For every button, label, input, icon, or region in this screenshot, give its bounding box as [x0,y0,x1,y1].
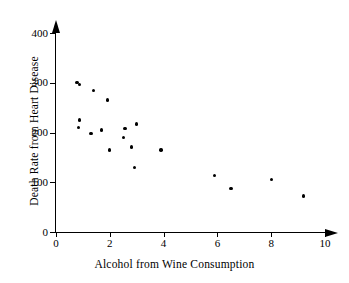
data-point [130,145,133,148]
y-tick-mark [50,33,55,34]
data-point [122,136,125,139]
x-tick-label: 2 [95,238,125,249]
data-point [92,89,95,92]
x-tick-label: 4 [149,238,179,249]
y-axis-arrow-icon [52,20,60,33]
data-point [89,132,92,135]
y-tick-mark [50,232,55,233]
data-point [159,148,162,151]
data-point [135,122,138,125]
data-point [78,83,81,86]
data-point [302,194,305,197]
x-tick-label: 6 [202,238,232,249]
x-axis-arrow-icon [325,229,338,237]
data-point [108,148,111,151]
data-point [213,174,216,177]
scatter-plot: 0100200300400 0246810 Alcohol from Wine … [0,0,349,283]
x-tick-label: 8 [256,238,286,249]
y-tick-mark [50,133,55,134]
x-axis-line [55,232,325,233]
data-point [229,187,232,190]
x-axis-title: Alcohol from Wine Consumption [0,258,349,270]
y-tick-mark [50,182,55,183]
data-point [123,127,126,130]
data-point [133,166,136,169]
data-point [106,98,109,101]
data-point [78,118,81,121]
y-axis-title: Death Rate from Heart Disease [28,31,40,231]
data-point [100,128,103,131]
y-tick-mark [50,83,55,84]
data-point [270,178,273,181]
y-tick-label: 0 [43,227,49,238]
x-tick-label: 0 [41,238,71,249]
x-tick-label: 10 [310,238,340,249]
data-point [77,126,80,129]
y-axis-line [55,33,56,232]
